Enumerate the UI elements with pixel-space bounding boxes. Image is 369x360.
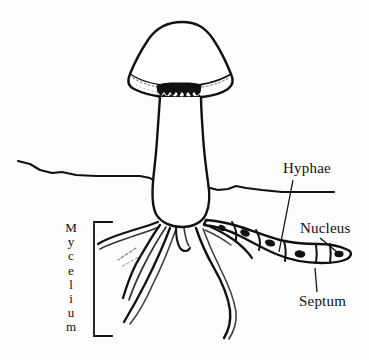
mushroom-stem	[152, 97, 209, 227]
mycelium-thread	[118, 248, 136, 260]
mycelium-letter: y	[62, 235, 80, 249]
soil-surface-line-left	[18, 161, 160, 185]
soil-surface-line-right	[206, 186, 334, 192]
label-septum: Septum	[299, 293, 346, 310]
septa-cross-walls	[316, 244, 317, 263]
mycelium-thread	[176, 228, 190, 251]
mycelium-thread	[196, 228, 230, 338]
mycelium-letter: M	[62, 221, 80, 235]
mycelium-letter: m	[62, 320, 80, 334]
mycelium-letter: u	[62, 306, 80, 320]
mycelium-letter: c	[62, 249, 80, 263]
label-nucleus: Nucleus	[300, 220, 351, 237]
mycelium-thread	[184, 228, 189, 246]
label-mycelium-vertical: M y c e l i u m	[62, 221, 80, 335]
mycelium-letter: l	[62, 278, 80, 292]
leader-line-septum	[315, 268, 317, 292]
mycelium-thread	[129, 227, 166, 300]
mycelium-letter: i	[62, 292, 80, 306]
figure-canvas: Hyphae Nucleus Septum M y c e l i u m	[0, 0, 369, 360]
label-hyphae: Hyphae	[283, 160, 331, 177]
mycelium-thread	[130, 229, 176, 324]
mycelium-thread	[123, 225, 160, 298]
mycelium-letter: e	[62, 264, 80, 278]
